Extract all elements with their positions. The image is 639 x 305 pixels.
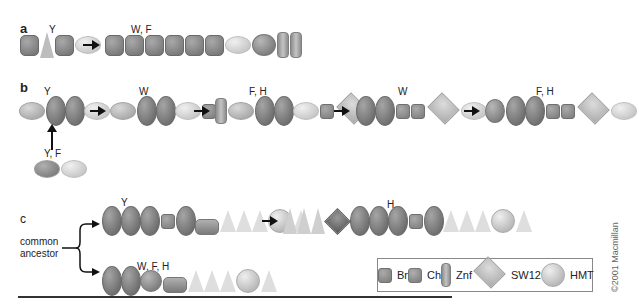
br-domain: [411, 104, 425, 119]
legend-item-znf: Znf: [441, 263, 472, 287]
br-domain: [161, 214, 175, 229]
domain-row-a2: [105, 31, 303, 59]
triangle-domain: [188, 270, 204, 292]
up-arrow-icon: [51, 130, 53, 150]
legend: Br Ch Znf SW12 HMT: [377, 258, 593, 292]
bottom-rule: [18, 296, 452, 298]
ch-domain: [205, 35, 224, 56]
chromo-oval-domain: [176, 206, 196, 236]
znf-domain: [195, 219, 219, 235]
arrow-icon: [334, 110, 348, 112]
site-label-b-ancestor: Y, F: [44, 148, 61, 159]
chromo-oval-domain: [65, 96, 85, 126]
triangle-domain: [283, 208, 297, 234]
legend-label-sw12: SW12: [511, 269, 541, 281]
triangle-domain: [220, 270, 236, 292]
br-domain: [409, 214, 423, 229]
dark-diamond-domain: [325, 209, 349, 233]
hmt-domain: [491, 209, 515, 233]
chromo-oval-domain: [356, 96, 376, 126]
sw12-domain: [576, 101, 610, 121]
oval-domain: [19, 102, 45, 120]
chromo-oval-domain: [506, 96, 526, 126]
legend-label-ch: Ch: [427, 269, 441, 281]
chromo-oval-domain: [424, 206, 444, 236]
legend-label-br: Br: [397, 269, 408, 281]
domain-row-b5: [485, 96, 638, 126]
legend-item-br: Br: [378, 268, 408, 283]
ch-domain: [125, 35, 144, 56]
common-ancestor-label-1: common: [20, 236, 58, 247]
chromo-oval-domain: [121, 206, 141, 236]
arrow-icon: [90, 110, 104, 112]
triangle-domain: [516, 210, 532, 232]
ch-domain: [165, 35, 184, 56]
chromo-oval-domain: [350, 206, 370, 236]
br-domain: [546, 104, 560, 119]
legend-item-sw12: SW12: [472, 265, 541, 285]
znf-icon: [441, 263, 451, 287]
triangle-domain: [204, 270, 220, 292]
triangle-domain: [459, 210, 475, 232]
common-ancestor-label-2: ancestor: [20, 248, 58, 259]
triangle-domain: [40, 32, 54, 58]
branch-bracket-icon: [62, 210, 100, 280]
chromo-oval-domain: [140, 206, 160, 236]
oval-domain: [110, 102, 136, 120]
ch-domain: [20, 35, 39, 56]
chromo-oval-domain: [121, 266, 141, 296]
light-oval-domain: [225, 36, 251, 54]
arrow-icon: [83, 44, 98, 46]
legend-label-hmt: HMT: [570, 269, 594, 281]
znf-domain: [290, 32, 302, 58]
arrow-icon: [262, 220, 276, 222]
sw12-domain: [426, 101, 460, 121]
sw12-icon: [472, 265, 506, 285]
chromo-oval-domain: [137, 96, 157, 126]
domain-row-b-ancestor: [34, 160, 88, 178]
znf-domain: [277, 32, 289, 58]
copyright-notice: ©2001 Macmillan: [610, 222, 620, 292]
light-oval-domain: [293, 102, 319, 120]
br-domain: [561, 104, 575, 119]
ch-icon: [408, 268, 422, 283]
znf-domain: [215, 98, 227, 124]
hmt-domain: [236, 269, 260, 293]
chromo-oval-domain: [156, 96, 176, 126]
arrow-icon: [194, 110, 208, 112]
chromo-oval-domain: [375, 96, 395, 126]
br-icon: [378, 268, 392, 283]
br-domain: [396, 104, 410, 119]
chromo-oval-domain: [46, 96, 66, 126]
triangle-domain: [443, 210, 459, 232]
triangle-domain: [475, 210, 491, 232]
domain-row-c-upper-derived: [283, 206, 532, 236]
chromo-oval-domain: [388, 206, 408, 236]
triangle-domain: [297, 208, 311, 234]
ch-domain: [185, 35, 204, 56]
znf-domain: [163, 277, 187, 293]
legend-item-hmt: HMT: [541, 263, 594, 287]
dark-oval-domain: [140, 270, 162, 292]
panel-c-label: c: [20, 212, 26, 226]
chromo-oval-domain: [274, 96, 294, 126]
br-domain: [320, 104, 334, 119]
hmt-icon: [541, 263, 565, 287]
chromo-oval-domain: [525, 96, 545, 126]
panel-b-label: b: [20, 80, 28, 95]
triangle-domain: [261, 270, 277, 292]
light-oval-domain: [611, 102, 637, 120]
ch-domain: [105, 35, 124, 56]
arrow-icon: [464, 110, 478, 112]
chromo-oval-domain: [102, 206, 122, 236]
light-oval-domain: [61, 160, 87, 178]
triangle-domain: [236, 210, 252, 232]
chromo-oval-domain: [255, 96, 275, 126]
chromo-oval-domain: [102, 266, 122, 296]
ch-domain: [145, 35, 164, 56]
oval-domain: [228, 102, 254, 120]
triangle-domain: [220, 210, 236, 232]
legend-item-ch: Ch: [408, 268, 441, 283]
ch-domain: [55, 35, 74, 56]
domain-row-c-lower: [102, 268, 277, 294]
